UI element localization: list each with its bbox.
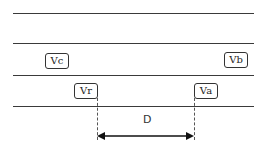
distance-arrow-icon	[0, 0, 265, 152]
